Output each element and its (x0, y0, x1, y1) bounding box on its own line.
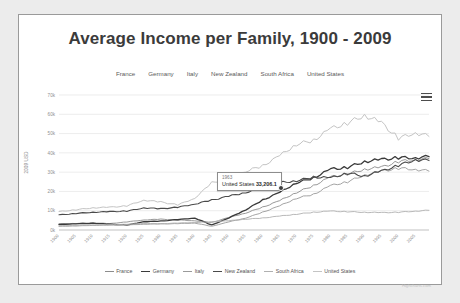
legend-swatch-icon (313, 271, 322, 272)
series-toggle-south-africa[interactable]: South Africa (261, 70, 294, 77)
chart-legend: FranceGermanyItalyNew ZealandSouth Afric… (19, 268, 441, 274)
legend-label: United States (324, 268, 355, 274)
x-axis-tick-label: 1910 (83, 233, 94, 244)
chart-title: Average Income per Family, 1900 - 2009 (19, 29, 441, 49)
tooltip-body: United States 33,206.1 (222, 181, 277, 188)
tooltip-point-marker (278, 185, 284, 191)
y-axis-tick-label: 50k (48, 131, 56, 136)
legend-swatch-icon (183, 271, 192, 272)
y-axis-tick-label: 0k (50, 228, 56, 233)
chart-credit: Highcharts.com (402, 283, 431, 288)
legend-label: Italy (195, 268, 205, 274)
x-axis-tick-label: 1995 (372, 233, 383, 244)
x-axis-tick-label: 1980 (321, 233, 332, 244)
y-axis-tick-label: 70k (48, 93, 56, 98)
legend-item-france[interactable]: France (105, 268, 133, 274)
tooltip-series-name: United States (222, 181, 254, 187)
x-axis-tick-label: 2005 (406, 233, 417, 244)
chart-container: Average Income per Family, 1900 - 2009 F… (18, 14, 442, 285)
legend-swatch-icon (264, 271, 273, 272)
x-axis-tick-label: 2000 (389, 233, 400, 244)
legend-item-south-africa[interactable]: South Africa (264, 268, 303, 274)
x-axis-tick-label: 1900 (49, 233, 60, 244)
x-axis-tick-label: 1915 (100, 233, 111, 244)
x-axis-tick-label: 1965 (270, 233, 281, 244)
legend-swatch-icon (213, 271, 222, 272)
legend-label: France (116, 268, 132, 274)
legend-swatch-icon (141, 271, 150, 272)
y-axis-tick-label: 10k (48, 208, 56, 213)
legend-item-germany[interactable]: Germany (141, 268, 174, 274)
series-toggle-row: FranceGermanyItalyNew ZealandSouth Afric… (19, 70, 441, 77)
x-axis-tick-label: 1935 (168, 233, 179, 244)
series-toggle-germany[interactable]: Germany (148, 70, 173, 77)
series-toggle-new-zealand[interactable]: New Zealand (211, 70, 247, 77)
series-toggle-france[interactable]: France (116, 70, 135, 77)
x-axis-tick-label: 1940 (185, 233, 196, 244)
x-axis-tick-label: 1925 (134, 233, 145, 244)
chart-screenshot: Average Income per Family, 1900 - 2009 F… (0, 0, 460, 303)
x-axis-tick-label: 1930 (151, 233, 162, 244)
x-axis-tick-label: 1905 (66, 233, 77, 244)
x-axis-tick-label: 1985 (338, 233, 349, 244)
x-axis-tick-label: 1990 (355, 233, 366, 244)
x-axis-tick-label: 1920 (117, 233, 128, 244)
x-axis-tick-label: 1975 (304, 233, 315, 244)
x-axis-tick-label: 1955 (236, 233, 247, 244)
y-axis-tick-label: 40k (48, 151, 56, 156)
x-axis-tick-label: 1960 (253, 233, 264, 244)
y-axis-tick-label: 60k (48, 112, 56, 117)
legend-item-new-zealand[interactable]: New Zealand (213, 268, 255, 274)
legend-swatch-icon (105, 271, 114, 272)
y-axis-tick-label: 20k (48, 189, 56, 194)
series-toggle-united-states[interactable]: United States (307, 70, 344, 77)
tooltip: 1963 United States 33,206.1 (217, 172, 282, 191)
legend-label: Germany (153, 268, 174, 274)
legend-item-united-states[interactable]: United States (313, 268, 356, 274)
legend-item-italy[interactable]: Italy (183, 268, 204, 274)
x-axis-tick-label: 1945 (202, 233, 213, 244)
x-axis-tick-label: 1950 (219, 233, 230, 244)
y-axis-tick-label: 30k (48, 170, 56, 175)
legend-label: New Zealand (225, 268, 256, 274)
tooltip-value: 33,206.1 (256, 181, 277, 187)
legend-label: South Africa (276, 268, 304, 274)
series-line-united-states[interactable] (59, 114, 429, 211)
series-toggle-italy[interactable]: Italy (187, 70, 198, 77)
x-axis-tick-label: 1970 (287, 233, 298, 244)
y-axis-title: 2009 USD (24, 151, 29, 174)
